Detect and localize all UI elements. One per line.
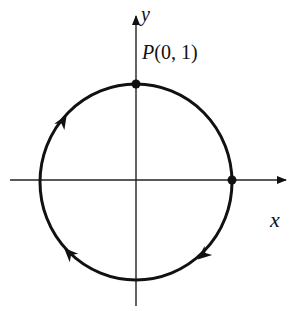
point-p-name: P xyxy=(142,41,154,63)
point-x-intercept-dot xyxy=(228,176,237,185)
point-p-dot xyxy=(132,80,141,89)
y-axis-label: y xyxy=(141,3,150,26)
unit-circle-diagram: y x P(0, 1) xyxy=(0,0,295,311)
arrow-lower-right-icon xyxy=(194,246,212,264)
x-axis-label: x xyxy=(270,207,280,233)
point-p-label: P(0, 1) xyxy=(142,41,198,64)
point-p-coords: (0, 1) xyxy=(154,41,197,63)
